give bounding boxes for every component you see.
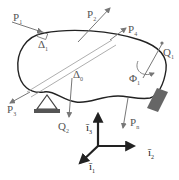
label-q1: Q1 (163, 46, 174, 60)
label-p2: P2 (87, 8, 96, 22)
force-p3-arrow (10, 92, 30, 103)
label-p3: P3 (7, 103, 16, 117)
force-q1-arrow (143, 44, 162, 78)
force-pn-arrow (123, 98, 128, 128)
label-pn: Pn (130, 116, 139, 130)
free-body-diagram: P1 P2 P4 P3 Pn Q1 Q2 Φ1 Δ1 Δ0 ī3 ī2 ī1 (0, 0, 179, 180)
force-p1-arrow (12, 22, 42, 32)
q1-point (160, 41, 163, 44)
force-q2-arrow (69, 78, 72, 117)
force-p2-arrow (78, 8, 110, 42)
label-p1: P1 (13, 11, 22, 25)
fixed-support (147, 88, 168, 112)
pin-support (34, 95, 60, 113)
label-i1: ī1 (88, 160, 95, 174)
label-i3: ī3 (85, 121, 92, 135)
label-i2: ī2 (147, 146, 154, 160)
label-q2: Q2 (58, 120, 69, 134)
label-delta1: Δ1 (38, 38, 48, 52)
label-p4: P4 (128, 23, 137, 37)
label-phi1: Φ1 (129, 72, 140, 86)
label-delta0: Δ0 (73, 68, 83, 82)
